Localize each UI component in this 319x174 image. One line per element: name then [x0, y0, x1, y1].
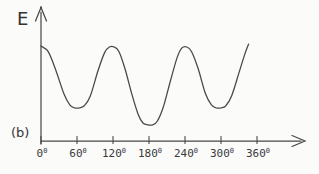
x-tick-label: 2400 [174, 147, 198, 161]
y-axis-label: E [17, 10, 29, 28]
figure-panel: 0060012001800240030003600 E (b) [0, 0, 319, 174]
panel-label: (b) [11, 126, 29, 139]
x-tick-label: 1200 [102, 147, 126, 161]
y-axis-arrow-tip [40, 6, 42, 8]
x-tick-label: 1800 [138, 147, 162, 161]
energy-curve [41, 44, 249, 125]
x-tick-label: 00 [37, 147, 48, 161]
x-tick-label: 3600 [246, 147, 270, 161]
x-tick-label: 600 [69, 147, 86, 161]
x-tick-label: 3000 [210, 147, 234, 161]
energy-plot: 0060012001800240030003600 [0, 0, 319, 174]
